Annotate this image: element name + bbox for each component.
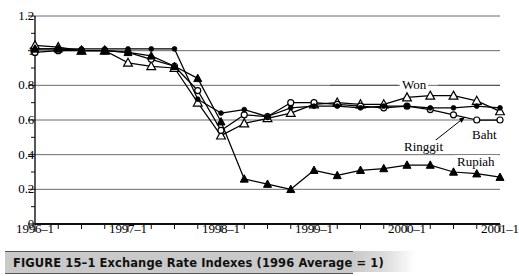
data-point-filled-circle [195, 97, 200, 102]
data-point-filled-circle [451, 105, 456, 110]
data-point-filled-circle [312, 104, 317, 109]
data-point-open-circle [474, 117, 480, 123]
data-point-filled-circle [474, 104, 479, 109]
data-point-filled-circle [172, 47, 177, 52]
series-label-ringgit: Ringgit [402, 140, 445, 153]
y-tick-label: 1.2 [18, 9, 34, 22]
data-point-filled-circle [428, 105, 433, 110]
series-label-won: Won [400, 78, 428, 91]
data-point-open-circle [241, 112, 247, 118]
data-point-filled-circle [405, 104, 410, 109]
data-point-filled-circle [358, 105, 363, 110]
chart-canvas [0, 0, 509, 245]
data-point-filled-circle [265, 114, 270, 119]
figure-caption-bar: FIGURE 15–1 Exchange Rate Indexes (1996 … [5, 251, 353, 274]
y-tick-label: 0.8 [18, 78, 34, 91]
data-point-open-triangle [124, 58, 133, 66]
x-tick-label: 1999–1 [295, 222, 333, 236]
data-point-open-circle [195, 88, 201, 94]
chart-plot-area [0, 0, 509, 245]
data-point-filled-circle [149, 47, 154, 52]
data-point-filled-triangle [217, 118, 225, 125]
data-point-open-circle [451, 112, 457, 118]
data-point-filled-circle [219, 111, 224, 116]
x-tick-label: 1998–1 [202, 222, 240, 236]
data-point-filled-triangle [310, 166, 318, 173]
data-point-filled-circle [381, 104, 386, 109]
data-point-filled-triangle [240, 175, 248, 182]
y-tick-label: 0.2 [18, 182, 34, 195]
x-tick-label: 2001–1 [481, 222, 519, 236]
y-tick-label: 0.6 [18, 113, 34, 126]
series-won [31, 41, 505, 139]
figure-caption-text: FIGURE 15–1 Exchange Rate Indexes (1996 … [5, 256, 384, 270]
data-point-filled-triangle [194, 74, 202, 81]
y-axis-tick-labels: 1.210.80.60.40.20 [0, 0, 34, 245]
series-ringgit [33, 47, 503, 119]
series-label-rupiah: Rupiah [455, 155, 497, 168]
data-point-open-circle [497, 117, 503, 123]
data-point-filled-circle [335, 104, 340, 109]
x-tick-label: 1996–1 [16, 222, 54, 236]
x-axis-tick-labels: 1996–11997–11998–11999–12000–12001–1 [0, 222, 509, 242]
y-tick-label: 1 [28, 44, 34, 57]
y-tick-label: 0.4 [18, 148, 34, 161]
data-point-filled-circle [242, 107, 247, 112]
data-point-filled-circle [498, 105, 503, 110]
x-tick-label: 2000–1 [388, 222, 426, 236]
data-point-filled-circle [288, 105, 293, 110]
data-point-open-circle [288, 100, 294, 106]
series-label-baht: Baht [470, 128, 499, 141]
x-tick-label: 1997–1 [109, 222, 147, 236]
